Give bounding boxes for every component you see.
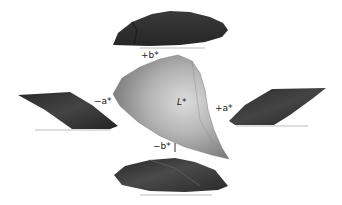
- gamut-diagram: [0, 0, 342, 205]
- label-minus-a: −a*: [94, 97, 112, 106]
- label-minus-b: −b*: [153, 142, 171, 151]
- label-plus-b: +b*: [141, 51, 159, 60]
- top-projection-shadow: [113, 11, 228, 48]
- right-projection-shadow: [229, 88, 326, 126]
- label-plus-a: +a*: [215, 104, 233, 113]
- gamut-solid: [113, 55, 229, 159]
- bottom-projection-shadow: [114, 158, 228, 195]
- label-lightness: L*: [177, 98, 187, 107]
